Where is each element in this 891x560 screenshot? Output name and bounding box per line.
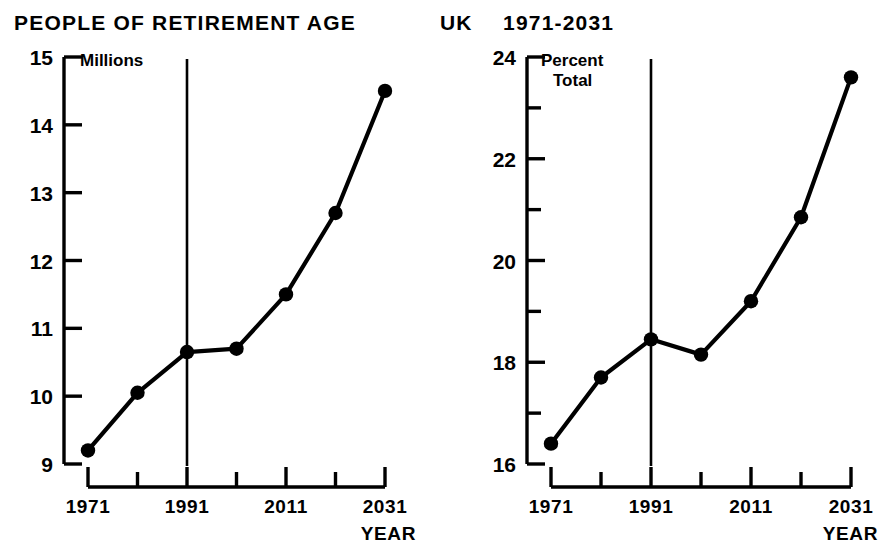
y-tick-label: 13 <box>30 182 53 205</box>
retirement-age-figure: PEOPLE OF RETIREMENT AGE UK 1971-2031 Mi… <box>0 0 891 560</box>
y-tick-label: 15 <box>30 46 54 69</box>
y-axis-unit-right-line2: Total <box>553 71 592 90</box>
data-point-marker <box>279 287 293 301</box>
y-tick-label: 12 <box>30 250 53 273</box>
data-point-marker <box>544 436 558 450</box>
y-tick-label: 20 <box>493 250 516 273</box>
x-tick-label: 2011 <box>729 496 773 517</box>
data-point-marker <box>744 294 758 308</box>
data-point-marker <box>328 206 342 220</box>
y-tick-label: 11 <box>31 317 54 340</box>
data-point-marker <box>644 332 658 346</box>
chart-region-label: UK <box>440 11 473 34</box>
x-axis-label-right: YEAR <box>823 523 878 544</box>
data-point-marker <box>694 347 708 361</box>
x-tick-label: 1991 <box>165 496 210 517</box>
y-tick-label: 22 <box>493 148 516 171</box>
data-point-marker <box>180 345 194 359</box>
y-axis-unit-right-line1: Percent <box>541 51 604 70</box>
y-tick-label: 9 <box>41 453 53 476</box>
data-point-marker <box>81 443 95 457</box>
y-tick-label: 16 <box>493 453 516 476</box>
x-tick-label: 1971 <box>66 496 111 517</box>
chart-title-left: PEOPLE OF RETIREMENT AGE <box>14 11 356 34</box>
x-tick-label: 2031 <box>363 496 408 517</box>
figure-background <box>0 0 891 560</box>
y-tick-label: 24 <box>493 46 517 69</box>
x-tick-label: 1991 <box>629 496 674 517</box>
x-tick-label: 2031 <box>829 496 874 517</box>
x-tick-label: 1971 <box>529 496 574 517</box>
y-tick-label: 14 <box>30 114 54 137</box>
data-point-marker <box>130 386 144 400</box>
x-axis-label-left: YEAR <box>361 523 416 544</box>
data-point-marker <box>229 341 243 355</box>
data-point-marker <box>378 84 392 98</box>
x-tick-label: 2011 <box>264 496 308 517</box>
figure-root: PEOPLE OF RETIREMENT AGE UK 1971-2031 Mi… <box>0 0 891 560</box>
data-point-marker <box>844 70 858 84</box>
data-point-marker <box>594 370 608 384</box>
y-axis-unit-left: Millions <box>80 51 143 70</box>
chart-period-label: 1971-2031 <box>503 11 614 34</box>
y-tick-label: 18 <box>493 351 517 374</box>
data-point-marker <box>794 210 808 224</box>
y-tick-label: 10 <box>30 385 53 408</box>
